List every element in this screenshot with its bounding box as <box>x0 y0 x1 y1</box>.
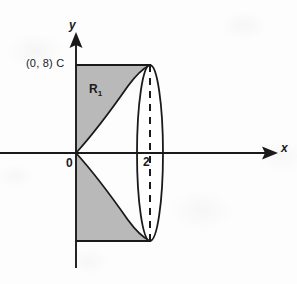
label-axis-x: x <box>281 142 288 154</box>
label-region-r1: R1 <box>89 83 102 98</box>
label-origin: 0 <box>66 157 73 169</box>
label-tick-2: 2 <box>143 156 150 168</box>
diagram-canvas <box>0 0 297 284</box>
region-letter: R <box>89 82 98 96</box>
label-axis-y: y <box>69 19 76 31</box>
region-subscript: 1 <box>98 89 102 98</box>
label-point-c: (0, 8) C <box>26 58 64 69</box>
figure-container: (0, 8) C R1 0 2 x y <box>0 0 297 284</box>
